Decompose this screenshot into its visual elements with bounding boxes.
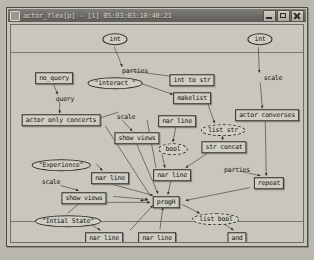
graph-node-str_concat[interactable]: str concat (201, 141, 246, 153)
edge-label-scale_left: scale (42, 178, 61, 186)
graph-edge (130, 205, 153, 230)
maximize-button[interactable] (277, 10, 290, 22)
graph-node-actor_only[interactable]: actor only concerts (22, 114, 101, 126)
graph-edge (186, 188, 251, 201)
graph-node-label: progH (157, 199, 176, 206)
close-button[interactable] (291, 10, 304, 22)
graph-edge (186, 152, 210, 168)
graph-node-label: "Experience" (39, 162, 84, 169)
graph-edge (182, 204, 200, 213)
graph-node-label: int (109, 36, 120, 43)
graph-edge (114, 47, 122, 67)
graph-node-repeat[interactable]: repeat (254, 177, 284, 189)
graph-node-int_top_left[interactable]: int (102, 33, 127, 45)
graph-node-show_views_2[interactable]: show views (61, 192, 106, 204)
edge-label-query: query (56, 95, 75, 103)
graph-node-label: int to str (173, 77, 210, 84)
edge-label-scale_mid: scale (117, 113, 136, 121)
graph-node-int_top_right[interactable]: int (247, 33, 272, 45)
graph-node-label: list bool (199, 216, 232, 223)
graph-edge (168, 181, 171, 195)
minimize-button[interactable] (263, 10, 276, 22)
graph-node-list_str[interactable]: list str (201, 124, 245, 136)
graph-canvas[interactable]: intintno_query"interact "int to strmakel… (10, 24, 304, 243)
graph-node-progH[interactable]: progH (153, 196, 180, 208)
graph-node-label: and (231, 235, 242, 242)
graph-node-label: list str (208, 127, 238, 134)
graph-edge (54, 84, 58, 94)
graph-edge (68, 202, 81, 213)
graph-node-no_query[interactable]: no_query (35, 72, 73, 84)
graph-node-makelist[interactable]: makelist (173, 92, 211, 104)
edge-label-parties_top: parties (122, 67, 148, 75)
window-titlebar[interactable]: actor_flex[p] - [1] 05:03:03:10:40:21 (8, 9, 306, 22)
graph-edge (96, 164, 102, 171)
graph-node-label: str concat (205, 144, 242, 151)
graph-node-nar_line_4[interactable]: nar line (85, 232, 123, 243)
graph-edge (113, 196, 148, 199)
graph-edge (265, 121, 266, 175)
graph-node-label: nar line (142, 235, 172, 242)
graph-node-nar_line_3[interactable]: nar line (153, 169, 191, 181)
graph-edge (160, 207, 163, 229)
graph-node-label: show views (65, 195, 102, 202)
graph-node-label: actor converses (239, 112, 295, 119)
graph-node-show_views_1[interactable]: show views (114, 132, 159, 144)
graph-node-nar_line_5[interactable]: nar line (138, 232, 176, 243)
graph-node-interact[interactable]: "interact " (88, 77, 143, 89)
graph-edge (260, 82, 262, 108)
graph-edge (173, 127, 176, 142)
graph-node-actor_converses[interactable]: actor converses (235, 109, 299, 121)
graph-edge (147, 120, 156, 168)
app-icon (10, 11, 20, 21)
graph-node-int_to_str[interactable]: int to str (169, 74, 214, 86)
graph-node-label: nar line (89, 235, 119, 242)
graph-edge (162, 154, 165, 168)
graph-node-label: nar line (162, 118, 192, 125)
graph-node-and[interactable]: and (227, 232, 246, 243)
graph-node-label: repeat (258, 180, 280, 187)
edge-label-parties_low: parties (224, 166, 250, 174)
graph-node-label: bool (166, 146, 181, 153)
graph-node-nar_line_1[interactable]: nar line (158, 115, 196, 127)
window-title: actor_flex[p] - [1] 05:03:03:10:40:21 (23, 12, 262, 20)
graph-node-initial_state[interactable]: "Intial State" (35, 215, 101, 227)
graph-node-label: nar line (157, 172, 187, 179)
graph-edge (138, 82, 173, 94)
graph-node-label: "interact " (95, 80, 136, 87)
edge-label-scale_right: scale (264, 74, 283, 82)
graph-edge (61, 186, 79, 191)
graph-node-label: "Intial State" (42, 218, 94, 225)
graph-node-list_bool[interactable]: list bool (192, 213, 239, 225)
application-window: actor_flex[p] - [1] 05:03:03:10:40:21 in… (6, 7, 308, 247)
graph-node-label: nar line (95, 175, 125, 182)
graph-node-label: actor only concerts (26, 117, 97, 124)
graph-edge (136, 143, 158, 194)
graph-node-label: makelist (177, 95, 207, 102)
graph-node-label: int (254, 36, 265, 43)
graph-node-nar_line_2[interactable]: nar line (91, 172, 129, 184)
graph-node-bool_mid[interactable]: bool (159, 143, 188, 155)
graph-node-label: show views (118, 135, 155, 142)
graph-node-experience[interactable]: "Experience" (32, 159, 91, 171)
graph-node-label: no_query (39, 75, 69, 82)
graph-edge (122, 120, 132, 131)
graph-edge (258, 47, 259, 73)
